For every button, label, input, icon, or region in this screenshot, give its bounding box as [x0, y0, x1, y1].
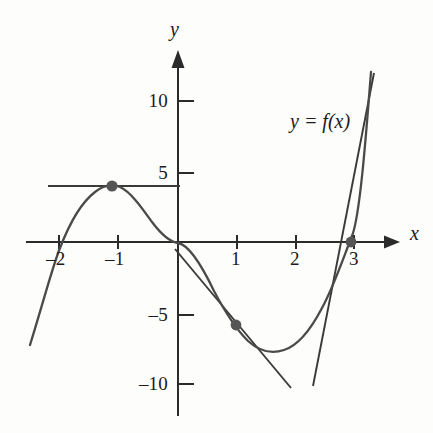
x-axis-name: x — [410, 222, 419, 245]
y-tick-label-10: 10 — [132, 90, 168, 112]
x-tick-label-minus-1: –1 — [105, 248, 124, 270]
x-tick-label-3: 3 — [349, 248, 359, 270]
point-tangency-x1 — [231, 320, 242, 331]
y-axis — [172, 50, 185, 416]
y-tick-label-minus-10: –10 — [112, 373, 168, 395]
y-tick-label-minus-5: –5 — [120, 304, 168, 326]
y-tick-label-5: 5 — [132, 162, 168, 184]
plot-canvas — [0, 0, 433, 433]
curve-equation-label: y = f(x) — [290, 110, 350, 133]
x-tick-label-minus-2: –2 — [46, 248, 65, 270]
x-tick-label-1: 1 — [231, 248, 241, 270]
x-tick-label-2: 2 — [290, 248, 300, 270]
y-axis-name: y — [170, 18, 179, 41]
point-tangency-x3 — [346, 237, 357, 248]
point-local-maximum — [106, 180, 117, 191]
graph-figure: 10 5 –5 –10 –2 –1 1 2 3 y x y = f(x) — [0, 0, 433, 433]
x-axis — [26, 236, 400, 249]
